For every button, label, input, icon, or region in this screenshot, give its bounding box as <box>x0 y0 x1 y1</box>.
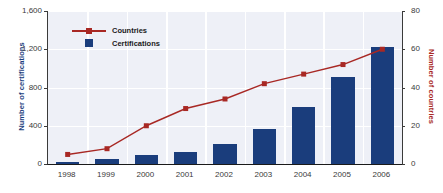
y-axis-right-tick-label: 60 <box>411 44 443 53</box>
countries-markers <box>65 47 385 157</box>
x-axis-tick-label-2004: 2004 <box>294 170 312 179</box>
legend-label-countries: Countries <box>112 26 147 35</box>
y-axis-right-tick-label: 0 <box>411 159 443 168</box>
chart-container: Number of certifications Number of count… <box>0 0 443 193</box>
x-axis-tick-label-2000: 2000 <box>136 170 154 179</box>
legend-item-certifications: Certifications <box>72 37 160 50</box>
y-axis-left-tick-mark <box>44 49 47 50</box>
x-axis-tick-label-2003: 2003 <box>254 170 272 179</box>
countries-line-path <box>68 49 383 154</box>
marker-2006 <box>380 47 385 52</box>
y-axis-left-tick-mark <box>44 88 47 89</box>
y-axis-left-tick-mark <box>44 11 47 12</box>
marker-1999 <box>105 146 110 151</box>
marker-2003 <box>262 81 267 86</box>
x-axis-tick-labels: 199819992000200120022003200420052006 <box>47 170 401 186</box>
marker-2000 <box>144 123 149 128</box>
chart-legend: Countries Certifications <box>72 24 160 50</box>
x-axis-tick-label-1999: 1999 <box>97 170 115 179</box>
y-axis-right-tick-mark <box>402 49 405 50</box>
x-axis-tick-label-2005: 2005 <box>333 170 351 179</box>
y-axis-right-tick-label: 80 <box>411 6 443 15</box>
legend-line-swatch-icon <box>72 26 106 35</box>
marker-2004 <box>301 72 306 77</box>
legend-item-countries: Countries <box>72 24 160 37</box>
y-axis-right-tick-label: 40 <box>411 83 443 92</box>
y-axis-left-tick-mark <box>44 164 47 165</box>
x-axis-tick-label-1998: 1998 <box>58 170 76 179</box>
x-axis-tick-label-2006: 2006 <box>372 170 390 179</box>
x-axis-tick-label-2002: 2002 <box>215 170 233 179</box>
y-axis-right-tick-mark <box>402 11 405 12</box>
marker-1998 <box>65 152 70 157</box>
y-axis-right-tick-mark <box>402 164 405 165</box>
y-axis-left-tick-label: 0 <box>2 159 42 168</box>
y-axis-left-tick-label: 800 <box>2 83 42 92</box>
y-axis-left-tick-label: 1,200 <box>2 44 42 53</box>
y-axis-right-tick-mark <box>402 126 405 127</box>
marker-2002 <box>223 96 228 101</box>
y-axis-left-tick-label: 400 <box>2 121 42 130</box>
y-axis-right-tick-mark <box>402 88 405 89</box>
legend-label-certifications: Certifications <box>112 39 160 48</box>
x-axis-tick-label-2001: 2001 <box>176 170 194 179</box>
y-axis-left-tick-mark <box>44 126 47 127</box>
y-axis-left-ticks: 04008001,2001,600 <box>0 0 42 193</box>
marker-2001 <box>183 106 188 111</box>
marker-2005 <box>341 62 346 67</box>
y-axis-right-ticks: 020406080 <box>404 0 443 193</box>
y-axis-left-tick-label: 1,600 <box>2 6 42 15</box>
y-axis-right-tick-label: 20 <box>411 121 443 130</box>
legend-bar-swatch-icon <box>72 39 106 48</box>
